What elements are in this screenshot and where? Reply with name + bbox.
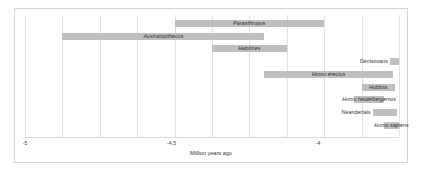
- bar-neandertals: [373, 109, 397, 116]
- bar-label-paranthropus: Paranthropus: [233, 18, 265, 29]
- bar-denisovans: [390, 58, 399, 65]
- bar-row: Homo sapiens: [25, 120, 399, 132]
- bar-label-hobbits: Hobbits: [369, 82, 387, 93]
- x-tick-label: -4.5: [167, 140, 176, 146]
- bar-row: Homo heidelbergensis: [25, 94, 399, 106]
- bar-row: Neandertals: [25, 107, 399, 119]
- plot-area: ParanthropusAustralopithecusHabilinesDen…: [25, 15, 399, 137]
- bar-row: Australopithecus: [25, 31, 399, 43]
- bar-label-habilines: Habilines: [238, 43, 260, 54]
- bar-label-neandertals: Neandertals: [342, 107, 371, 118]
- x-tick-label: -4: [316, 140, 321, 146]
- bar-row: Hobbits: [25, 82, 399, 94]
- x-axis-line: [25, 137, 399, 138]
- chart-frame: ParanthropusAustralopithecusHabilinesDen…: [14, 8, 408, 163]
- bar-label-homo-erectus: Homo erectus: [312, 69, 346, 80]
- bar-label-australopithecus: Australopithecus: [143, 31, 183, 42]
- bar-row: Habilines: [25, 43, 399, 55]
- bar-row: Denisovans: [25, 56, 399, 68]
- bar-label-homo-heidelbergensis: Homo heidelbergensis: [342, 94, 396, 105]
- x-tick-label: -5: [23, 140, 28, 146]
- bar-row: Homo erectus: [25, 69, 399, 81]
- bar-label-homo-sapiens: Homo sapiens: [374, 120, 408, 131]
- x-axis-title: Million years ago: [15, 150, 407, 156]
- bar-row: Paranthropus: [25, 18, 399, 30]
- bar-label-denisovans: Denisovans: [360, 56, 388, 67]
